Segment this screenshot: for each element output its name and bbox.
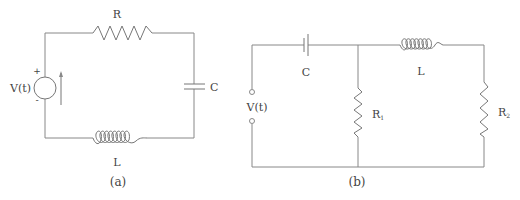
wire-a-top-right	[152, 33, 194, 84]
wire-a-bottom-left	[45, 99, 93, 138]
inductor-b-icon	[400, 39, 443, 50]
circuit-b: C V(t) R1 L R2 (b)	[246, 34, 511, 189]
inductor-l-icon	[93, 131, 147, 144]
source-vt-label: V(t)	[9, 82, 31, 95]
wire-a-right-bottom	[147, 89, 194, 138]
source-minus-sign: -	[35, 95, 38, 105]
resistor-r2-icon	[480, 82, 488, 137]
current-arrow-head	[59, 71, 63, 77]
source-plus-sign: +	[33, 66, 41, 76]
resistor-r1-icon	[354, 88, 362, 137]
inductor-l-label: L	[113, 156, 121, 169]
resistor-r1-label: R1	[372, 108, 384, 121]
resistor-r2-label: R2	[498, 106, 510, 119]
resistor-r-icon	[93, 26, 152, 40]
capacitor-b-label: C	[302, 66, 310, 79]
circuit-diagrams: R C L + - V(t) (a) C V(t	[0, 0, 520, 200]
wire-a-top-left	[45, 33, 93, 77]
source-b-vt-label: V(t)	[246, 101, 268, 114]
terminal-top-icon	[250, 90, 255, 95]
caption-a: (a)	[110, 175, 127, 189]
wire-b-top-right	[443, 45, 484, 82]
resistor-r-label: R	[113, 8, 122, 21]
capacitor-c-label: C	[210, 81, 218, 94]
terminal-bottom-icon	[250, 119, 255, 124]
circuit-a: R C L + - V(t) (a)	[9, 8, 218, 189]
wire-b-left-top	[252, 45, 304, 89]
wire-b-r2-bottom	[252, 124, 484, 167]
caption-b: (b)	[348, 175, 365, 189]
inductor-b-label: L	[417, 65, 425, 78]
